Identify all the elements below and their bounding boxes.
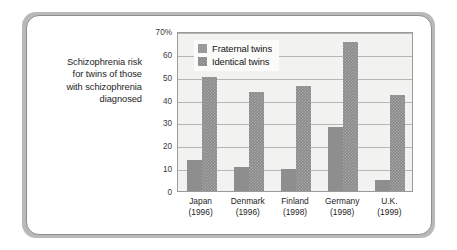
y-axis-tick-label: 40 <box>147 96 172 105</box>
x-axis-category-year: (1996) <box>224 207 271 218</box>
chart-legend: Fraternal twins Identical twins <box>194 40 279 71</box>
x-axis-category-label: Denmark(1996) <box>224 196 271 219</box>
legend-swatch-fraternal-icon <box>198 44 207 53</box>
caption-line-3: with schizophrenia <box>34 81 142 93</box>
bar-identical <box>343 42 358 191</box>
legend-item-identical: Identical twins <box>198 55 272 68</box>
bar-group <box>281 33 311 191</box>
y-axis-tick-label: 20 <box>147 142 172 151</box>
x-axis-category-name: Denmark <box>231 196 265 206</box>
bar-fraternal <box>234 167 249 191</box>
bar-chart: 010203040506070% Fraternal twins Identic… <box>147 32 419 228</box>
y-axis: 010203040506070% <box>147 32 172 192</box>
y-axis-tick-label: 60 <box>147 50 172 59</box>
x-axis-category-year: (1998) <box>319 207 366 218</box>
x-axis-category-name: Germany <box>325 196 359 206</box>
x-axis: Japan(1996)Denmark(1996)Finland(1998)Ger… <box>177 196 413 226</box>
bar-fraternal <box>281 169 296 191</box>
caption-line-1: Schizophrenia risk <box>34 56 142 68</box>
x-axis-category-name: Japan <box>189 196 212 206</box>
x-axis-category-year: (1996) <box>177 207 224 218</box>
y-axis-tick-label: 30 <box>147 119 172 128</box>
plot-area: Fraternal twins Identical twins <box>177 32 413 192</box>
y-axis-tick-label: 70% <box>147 28 172 37</box>
y-axis-tick-label: 10 <box>147 165 172 174</box>
caption-line-2: for twins of those <box>34 68 142 80</box>
y-axis-tick-label: 0 <box>147 188 172 197</box>
legend-swatch-identical-icon <box>198 57 207 66</box>
caption-line-4: diagnosed <box>34 93 142 105</box>
bar-group <box>375 33 405 191</box>
bar-fraternal <box>375 180 390 191</box>
bar-group <box>328 33 358 191</box>
legend-label-identical: Identical twins <box>212 56 269 67</box>
bar-fraternal <box>187 160 202 191</box>
bar-identical <box>390 95 405 191</box>
y-axis-tick-label: 50 <box>147 73 172 82</box>
x-axis-category-name: U.K. <box>381 196 397 206</box>
x-axis-category-label: Japan(1996) <box>177 196 224 219</box>
bar-identical <box>249 92 264 191</box>
x-axis-category-label: U.K.(1999) <box>366 196 413 219</box>
x-axis-category-name: Finland <box>281 196 308 206</box>
x-axis-category-year: (1999) <box>366 207 413 218</box>
legend-item-fraternal: Fraternal twins <box>198 42 272 55</box>
bar-identical <box>202 77 217 191</box>
legend-label-fraternal: Fraternal twins <box>212 43 272 54</box>
x-axis-category-label: Germany(1998) <box>319 196 366 219</box>
chart-caption: Schizophrenia risk for twins of those wi… <box>34 56 142 106</box>
x-axis-category-year: (1998) <box>271 207 318 218</box>
x-axis-category-label: Finland(1998) <box>271 196 318 219</box>
bar-fraternal <box>328 127 343 191</box>
bar-identical <box>296 86 311 191</box>
